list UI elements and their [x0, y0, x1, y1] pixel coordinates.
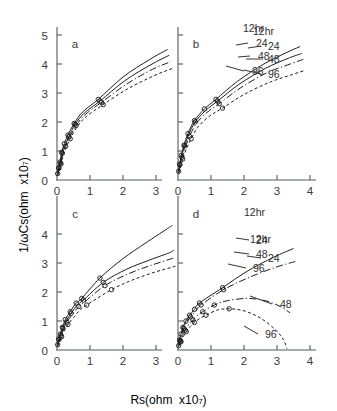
- svg-text:1: 1: [87, 185, 93, 197]
- svg-text:3: 3: [274, 185, 280, 197]
- svg-text:0: 0: [54, 355, 60, 367]
- svg-text:1: 1: [42, 146, 48, 158]
- svg-text:0: 0: [42, 175, 48, 187]
- svg-text:3: 3: [42, 258, 48, 270]
- svg-text:2: 2: [120, 185, 126, 197]
- markers-c-96: [59, 287, 113, 338]
- series-label-c-12hr: 12hr: [244, 206, 266, 218]
- svg-text:1: 1: [208, 185, 214, 197]
- svg-text:4: 4: [42, 229, 49, 241]
- panel-d-axes: 01234: [175, 196, 316, 367]
- leader-c-48: [234, 252, 249, 254]
- curve-d-24: [179, 262, 295, 346]
- series-label-d-48: 48: [280, 298, 292, 310]
- series-label-b-96: 96: [268, 68, 280, 80]
- leader-a-96: [226, 66, 244, 71]
- series-label-a-96: 96: [252, 65, 264, 77]
- curve-c-96: [58, 266, 176, 346]
- series-label-c-96: 96: [253, 262, 265, 274]
- panel-letter-b: b: [193, 38, 199, 50]
- markers-a-48: [58, 100, 103, 165]
- svg-text:3: 3: [42, 88, 48, 100]
- panel-b-axes: 01234: [175, 27, 316, 197]
- svg-text:0: 0: [42, 345, 48, 357]
- leader-c-24: [236, 238, 249, 240]
- figure-root: 01230123450123401230123401234 abcd12hr24…: [0, 0, 337, 411]
- curve-a-48: [58, 62, 171, 175]
- svg-text:2: 2: [42, 287, 48, 299]
- svg-text:4: 4: [42, 59, 49, 71]
- impedance-cole-cole-plot: 01230123450123401230123401234 abcd12hr24…: [0, 0, 337, 411]
- series-label-b-24: 24: [268, 40, 280, 52]
- curve-c-12hr: [58, 225, 173, 344]
- curve-a-12hr: [58, 50, 168, 174]
- svg-text:3: 3: [274, 355, 280, 367]
- svg-text:4: 4: [307, 355, 314, 367]
- panel-letter-d: d: [193, 208, 199, 220]
- series-label-c-48: 48: [256, 248, 268, 260]
- svg-text:2: 2: [120, 355, 126, 367]
- markers-b-12hr: [176, 97, 218, 173]
- leader-a-48: [238, 56, 250, 57]
- svg-text:1: 1: [87, 355, 93, 367]
- leader-d-48: [250, 296, 272, 304]
- curve-b-24: [179, 54, 302, 172]
- svg-text:1: 1: [208, 355, 214, 367]
- series-label-b-12hr: 12hr: [253, 25, 275, 37]
- x-axis-title: Rs(ohm x107): [0, 393, 337, 407]
- markers-c-12hr: [55, 276, 102, 347]
- leader-c-96: [228, 264, 246, 268]
- series-label-d-96: 96: [265, 328, 277, 340]
- svg-text:2: 2: [241, 185, 247, 197]
- markers-c-48: [59, 283, 107, 337]
- markers-layer: [55, 97, 231, 348]
- svg-text:5: 5: [42, 30, 48, 42]
- svg-text:1: 1: [42, 316, 48, 328]
- leader-a-24: [236, 43, 248, 45]
- svg-text:3: 3: [153, 185, 159, 197]
- panel-letter-a: a: [72, 38, 79, 50]
- svg-text:2: 2: [42, 117, 48, 129]
- svg-text:3: 3: [153, 355, 159, 367]
- svg-text:0: 0: [54, 185, 60, 197]
- series-label-d-24: 24: [268, 252, 280, 264]
- markers-d-12hr: [176, 285, 224, 347]
- svg-text:4: 4: [307, 185, 314, 197]
- curves-layer: [58, 47, 305, 349]
- markers-b-96: [180, 106, 224, 161]
- series-label-a-24: 24: [256, 37, 268, 49]
- series-label-b-48: 48: [268, 53, 280, 65]
- markers-c-24: [57, 280, 106, 342]
- series-label-d-12hr: 12hr: [250, 233, 272, 245]
- svg-text:0: 0: [175, 185, 181, 197]
- y-axis-title: 1/ωCs(ohm x107): [17, 135, 31, 275]
- panel-a-axes: 0123012345: [42, 27, 162, 197]
- svg-text:2: 2: [241, 355, 247, 367]
- panel-letter-c: c: [72, 208, 78, 220]
- leader-d-96: [244, 326, 258, 334]
- svg-text:0: 0: [175, 355, 181, 367]
- curve-b-12hr: [179, 47, 300, 172]
- curve-a-24: [58, 55, 170, 174]
